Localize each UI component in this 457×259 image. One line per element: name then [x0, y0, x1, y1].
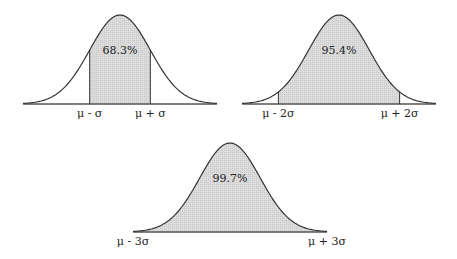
normal-distribution-charts: 68.3%μ - σμ + σ 95.4%μ - 2σμ + 2σ 99.7%μ…	[0, 0, 457, 259]
percentage-label: 95.4%	[322, 44, 357, 57]
right-tick-label: μ + 2σ	[381, 107, 419, 120]
left-tick-label: μ - σ	[77, 107, 103, 120]
right-tick-label: μ + σ	[135, 107, 166, 120]
percentage-label: 99.7%	[213, 172, 248, 185]
right-tick-label: μ + 3σ	[308, 235, 346, 248]
percentage-label: 68.3%	[103, 44, 138, 57]
panel-2-sigma: 95.4%μ - 2σμ + 2σ	[242, 15, 436, 120]
panel-3-sigma: 99.7%μ - 3σμ + 3σ	[117, 143, 347, 248]
left-tick-label: μ - 2σ	[262, 107, 295, 120]
shaded-area	[90, 15, 151, 104]
left-tick-label: μ - 3σ	[117, 235, 150, 248]
shaded-area	[278, 15, 399, 104]
panel-1-sigma: 68.3%μ - σμ + σ	[23, 15, 217, 120]
shaded-area	[139, 143, 321, 232]
